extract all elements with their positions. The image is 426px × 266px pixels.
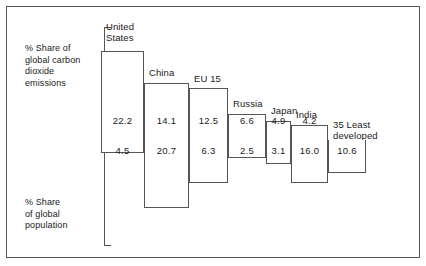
emissions-axis-caption: % Share of global carbon dioxide emissio… <box>25 43 99 89</box>
emissions-bar-eu-15: 12.5 <box>189 88 228 140</box>
emissions-bar-india: 4.2 <box>291 125 328 140</box>
emissions-value-russia: 6.6 <box>229 115 265 126</box>
population-bar-united-states: 4.5 <box>101 140 144 153</box>
population-value-china: 20.7 <box>145 145 188 156</box>
emissions-bar-japan: 4.9 <box>266 121 291 140</box>
population-value-united-states: 4.5 <box>102 145 143 156</box>
population-value-russia: 2.5 <box>229 145 265 156</box>
emissions-value-japan: 4.9 <box>267 115 290 126</box>
category-label-united-states: United States <box>106 21 183 43</box>
population-bar-china: 20.7 <box>144 140 189 208</box>
population-bar-india: 16.0 <box>291 140 328 183</box>
population-value-india: 16.0 <box>292 145 327 156</box>
category-label-eu-15: EU 15 <box>194 73 267 84</box>
category-label-35-least-developed: 35 Least developed <box>333 119 405 141</box>
population-bar-russia: 2.5 <box>228 140 266 158</box>
emissions-bar-russia: 6.6 <box>228 114 266 140</box>
emissions-bar-china: 14.1 <box>144 83 189 140</box>
emissions-bar-united-states: 22.2 <box>101 51 144 140</box>
bracket-tick-bottom <box>104 245 111 246</box>
emissions-value-united-states: 22.2 <box>102 115 143 126</box>
population-value-japan: 3.1 <box>267 145 290 156</box>
emissions-value-eu-15: 12.5 <box>190 115 227 126</box>
population-bar-35-least-developed: 10.6 <box>328 140 366 173</box>
population-bar-japan: 3.1 <box>266 140 291 164</box>
population-axis-caption: % Share of global population <box>25 197 99 232</box>
population-value-35-least-developed: 10.6 <box>329 145 365 156</box>
population-bar-eu-15: 6.3 <box>189 140 228 183</box>
emissions-value-india: 4.2 <box>292 115 327 126</box>
emissions-value-china: 14.1 <box>145 115 188 126</box>
population-value-eu-15: 6.3 <box>190 145 227 156</box>
chart-frame: % Share of global carbon dioxide emissio… <box>6 6 420 258</box>
